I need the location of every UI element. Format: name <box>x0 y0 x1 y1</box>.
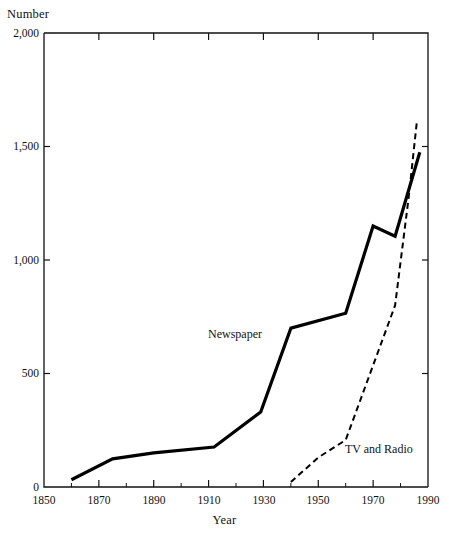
series-path-tv-and-radio <box>291 120 417 482</box>
series-lines <box>71 120 419 482</box>
chart-figure: Number Year 2,000 1,500 1,000 500 0 1850… <box>0 0 449 545</box>
plot-canvas <box>0 0 449 545</box>
tick-marks <box>44 33 428 487</box>
series-path-newspaper <box>71 152 419 480</box>
axis-frame <box>44 33 428 487</box>
